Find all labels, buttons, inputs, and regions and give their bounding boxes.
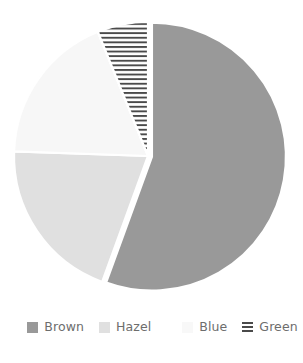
legend-label-blue: Blue: [199, 321, 227, 334]
legend-swatch-hazel: [99, 322, 110, 333]
legend-label-brown: Brown: [44, 321, 84, 334]
legend-swatch-blue: [182, 322, 193, 333]
legend-item-blue[interactable]: Blue: [182, 321, 227, 334]
pie-slices-group: [14, 22, 286, 291]
legend-swatch-green: [242, 322, 253, 333]
legend-item-hazel[interactable]: Hazel: [99, 321, 151, 334]
legend-item-green[interactable]: Green: [242, 321, 297, 334]
pie-chart-figure: Brown Hazel Blue Green: [0, 0, 303, 363]
legend-label-green: Green: [259, 321, 297, 334]
legend-swatch-brown: [27, 322, 38, 333]
pie-chart-plot-area: [0, 0, 303, 310]
chart-legend: Brown Hazel Blue Green: [0, 312, 303, 342]
legend-label-hazel: Hazel: [116, 321, 151, 334]
pie-chart-svg: [0, 0, 303, 310]
legend-item-brown[interactable]: Brown: [27, 321, 84, 334]
